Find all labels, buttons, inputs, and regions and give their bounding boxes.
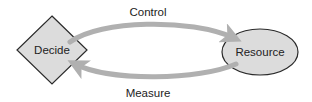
control-arrow-icon xyxy=(70,24,234,42)
decide-node: Decide xyxy=(17,16,87,84)
control-edge: Control xyxy=(70,6,234,42)
decide-label: Decide xyxy=(34,44,70,56)
control-label: Control xyxy=(129,6,166,18)
resource-label: Resource xyxy=(235,46,284,58)
feedback-loop-diagram: Decide Resource Control Measure xyxy=(0,0,312,102)
measure-arrow-icon xyxy=(75,64,236,77)
measure-edge: Measure xyxy=(75,64,236,99)
measure-label: Measure xyxy=(126,87,171,99)
